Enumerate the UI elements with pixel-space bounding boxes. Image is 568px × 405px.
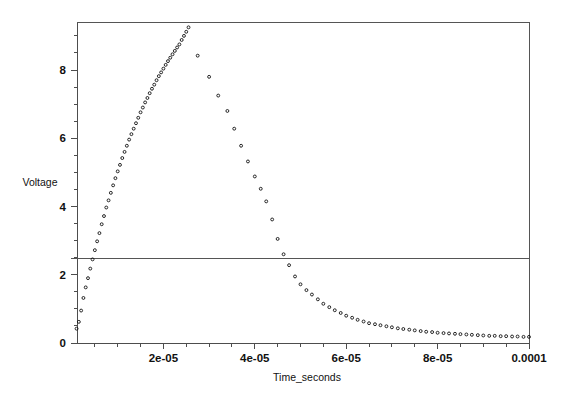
data-point (459, 333, 462, 336)
data-point (160, 71, 163, 74)
data-point (499, 335, 502, 338)
data-point (77, 320, 80, 323)
data-point (121, 157, 124, 160)
x-axis-title: Time_seconds (273, 371, 341, 383)
data-point (146, 97, 149, 100)
plot-frame (77, 22, 530, 344)
data-point (339, 312, 342, 315)
data-point (282, 253, 285, 256)
data-point (288, 264, 291, 267)
data-point (155, 79, 158, 82)
y-tick-labels: 02468 (60, 64, 67, 349)
data-point (246, 160, 249, 163)
data-point (448, 332, 451, 335)
x-tick-label: 4e-05 (240, 352, 270, 364)
y-axis-title: Voltage (22, 176, 57, 188)
data-point (413, 329, 416, 332)
data-point (98, 232, 101, 235)
data-point (425, 330, 428, 333)
data-point (322, 302, 325, 305)
data-point (233, 127, 236, 130)
data-point (208, 75, 211, 78)
data-point (89, 267, 92, 270)
data-point (240, 144, 243, 147)
data-point (276, 237, 279, 240)
data-point (493, 334, 496, 337)
data-point (271, 218, 274, 221)
data-point (316, 298, 319, 301)
data-point (187, 26, 190, 29)
data-point (419, 330, 422, 333)
data-point (87, 277, 90, 280)
data-point (454, 332, 457, 335)
data-point (511, 335, 514, 338)
data-point (362, 320, 365, 323)
data-point (183, 34, 186, 37)
data-point (259, 187, 262, 190)
data-point (135, 122, 138, 125)
data-point (390, 326, 393, 329)
data-point (119, 163, 122, 166)
x-tick-label: 8e-05 (423, 352, 453, 364)
data-point (125, 144, 128, 147)
data-point (82, 297, 85, 300)
data-point (100, 223, 103, 226)
data-point (91, 258, 94, 261)
x-tick-label: 6e-05 (331, 352, 361, 364)
data-point (345, 314, 348, 317)
data-point (482, 334, 485, 337)
data-point (132, 127, 135, 130)
data-point (408, 328, 411, 331)
data-point (176, 46, 179, 49)
data-point (505, 335, 508, 338)
data-point (196, 54, 199, 57)
data-point (151, 87, 154, 90)
chart-container: 2e-054e-056e-058e-050.0001 02468 Time_se… (0, 0, 568, 405)
data-point (516, 335, 519, 338)
data-point (368, 322, 371, 325)
data-point (294, 275, 297, 278)
data-point (442, 332, 445, 335)
y-tick-label: 6 (60, 132, 66, 144)
data-point (137, 116, 140, 119)
data-points (75, 26, 530, 338)
data-point (431, 331, 434, 334)
data-point (164, 63, 167, 66)
data-point (178, 43, 181, 46)
data-point (351, 316, 354, 319)
x-tick-label: 0.0001 (511, 352, 547, 364)
data-point (123, 150, 126, 153)
y-axis-ticks (71, 36, 77, 343)
x-tick-labels: 2e-054e-056e-058e-050.0001 (149, 352, 547, 364)
data-point (107, 199, 110, 202)
data-point (105, 206, 108, 209)
data-point (116, 170, 119, 173)
data-point (148, 92, 151, 95)
data-point (139, 111, 142, 114)
data-point (328, 306, 331, 309)
data-point (144, 101, 147, 104)
data-point (162, 67, 165, 70)
data-point (112, 184, 115, 187)
data-point (522, 335, 525, 338)
data-point (385, 325, 388, 328)
data-point (226, 110, 229, 113)
data-point (356, 318, 359, 321)
data-point (185, 30, 188, 33)
data-point (157, 75, 160, 78)
data-point (80, 309, 83, 312)
data-point (333, 309, 336, 312)
data-point (299, 283, 302, 286)
data-point (379, 324, 382, 327)
data-point (114, 177, 117, 180)
data-point (465, 333, 468, 336)
data-point (93, 249, 96, 252)
data-point (265, 200, 268, 203)
y-tick-label: 2 (60, 269, 66, 281)
data-point (128, 138, 131, 141)
data-point (96, 240, 99, 243)
y-tick-label: 0 (60, 337, 66, 349)
data-point (84, 286, 87, 289)
data-point (470, 333, 473, 336)
data-point (173, 49, 176, 52)
